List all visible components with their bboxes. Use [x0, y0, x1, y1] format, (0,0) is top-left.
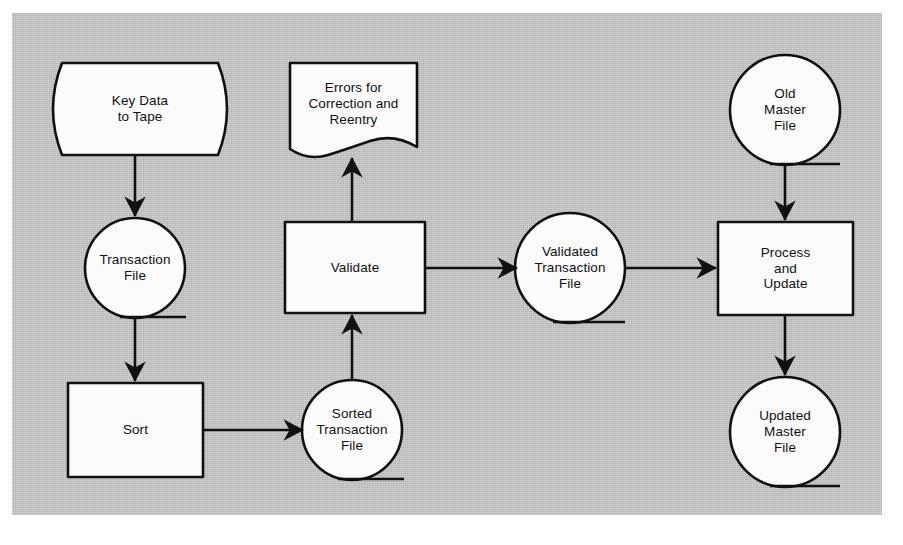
node-errors-for-correction-shape[interactable]	[290, 63, 417, 157]
node-old-master-file-shape[interactable]	[730, 55, 840, 165]
node-key-data-to-tape-shape[interactable]	[53, 63, 227, 155]
flowchart-canvas: Key Datato Tape Errors forCorrection and…	[0, 0, 903, 545]
node-validated-transaction-file-shape[interactable]	[515, 213, 625, 323]
node-transaction-file-shape[interactable]	[85, 218, 185, 318]
node-updated-master-file-shape[interactable]	[730, 377, 840, 487]
node-validate-shape[interactable]	[285, 222, 425, 313]
node-sorted-transaction-file-shape[interactable]	[302, 380, 402, 480]
node-process-and-update-shape[interactable]	[718, 222, 853, 315]
flowchart-vector-layer	[0, 0, 903, 545]
node-sort-shape[interactable]	[68, 383, 203, 477]
